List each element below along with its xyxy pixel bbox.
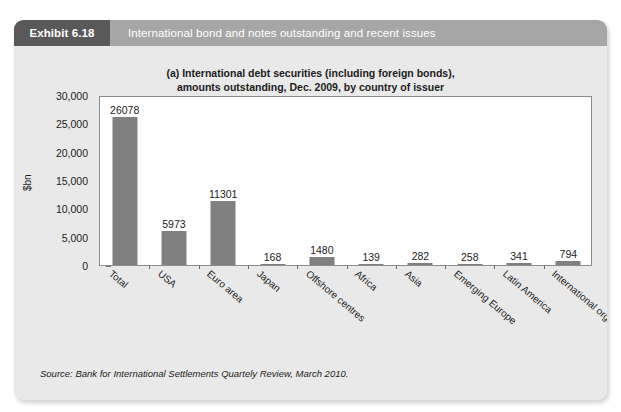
plot-area: 260785973113011681480139282258341794 bbox=[99, 96, 592, 266]
bar[interactable] bbox=[507, 263, 532, 265]
bar[interactable] bbox=[260, 264, 285, 266]
bar[interactable] bbox=[359, 264, 384, 266]
y-tick-label: 15,000 bbox=[56, 175, 88, 187]
bar-group: 139 bbox=[347, 97, 396, 265]
bar-value-label: 341 bbox=[510, 250, 528, 262]
bar[interactable] bbox=[112, 117, 137, 265]
chart-plot-region: $bn 05,00010,00015,00020,00025,00030,000… bbox=[14, 96, 607, 366]
bar-group: 26078 bbox=[100, 97, 149, 265]
bar[interactable] bbox=[457, 264, 482, 266]
bar-group: 258 bbox=[445, 97, 494, 265]
bar-value-label: 5973 bbox=[162, 218, 185, 230]
x-axis-tick-labels: TotalUSAEuro areaJapanOffshore centresAf… bbox=[99, 268, 592, 368]
y-tick-label: 10,000 bbox=[56, 203, 88, 215]
y-axis-tick-labels: 05,00010,00015,00020,00025,00030,000 bbox=[26, 96, 94, 266]
bar[interactable] bbox=[309, 257, 334, 265]
x-tick-label: Total bbox=[107, 268, 130, 290]
y-tick-label: 20,000 bbox=[56, 147, 88, 159]
bar-group: 5973 bbox=[149, 97, 198, 265]
x-tick-label: Asia bbox=[403, 268, 425, 289]
x-tick-label: Euro area bbox=[205, 268, 246, 305]
bar[interactable] bbox=[161, 231, 186, 265]
bar-value-label: 11301 bbox=[209, 188, 237, 200]
exhibit-number-tag: Exhibit 6.18 bbox=[14, 20, 110, 46]
bar[interactable] bbox=[211, 201, 236, 265]
bar[interactable] bbox=[408, 263, 433, 265]
y-tick-label: 25,000 bbox=[56, 118, 88, 130]
x-tick-label: Japan bbox=[255, 268, 283, 294]
x-tick-label: International organisations bbox=[550, 268, 607, 352]
bar-value-label: 1480 bbox=[310, 244, 333, 256]
bar-group: 11301 bbox=[199, 97, 248, 265]
chart-title-line-1: (a) International debt securities (inclu… bbox=[14, 66, 607, 80]
bar-value-label: 168 bbox=[264, 251, 282, 263]
bar-value-label: 139 bbox=[362, 251, 380, 263]
y-tick-mark bbox=[106, 266, 111, 267]
bar-value-label: 282 bbox=[412, 250, 430, 262]
bar[interactable] bbox=[556, 261, 581, 265]
chart-title-line-2: amounts outstanding, Dec. 2009, by count… bbox=[14, 80, 607, 94]
bar-group: 1480 bbox=[297, 97, 346, 265]
bar-value-label: 258 bbox=[461, 251, 479, 263]
bar-group: 282 bbox=[396, 97, 445, 265]
bars-container: 260785973113011681480139282258341794 bbox=[100, 97, 591, 265]
exhibit-header: Exhibit 6.18 International bond and note… bbox=[14, 20, 607, 46]
y-tick-label: 5,000 bbox=[62, 232, 88, 244]
bar-value-label: 794 bbox=[560, 248, 578, 260]
chart-title: (a) International debt securities (inclu… bbox=[14, 66, 607, 94]
bar-group: 168 bbox=[248, 97, 297, 265]
exhibit-card: Exhibit 6.18 International bond and note… bbox=[14, 20, 607, 400]
y-tick-label: 0 bbox=[82, 260, 88, 272]
y-tick-label: 30,000 bbox=[56, 90, 88, 102]
x-tick-label: Latin America bbox=[501, 268, 554, 315]
x-tick-label: Africa bbox=[353, 268, 380, 293]
bar-group: 341 bbox=[494, 97, 543, 265]
bar-value-label: 26078 bbox=[110, 104, 139, 116]
exhibit-header-title: International bond and notes outstanding… bbox=[110, 20, 607, 46]
source-note: Source: Bank for International Settlemen… bbox=[40, 368, 348, 379]
x-tick-label: USA bbox=[156, 268, 179, 290]
bar-group: 794 bbox=[544, 97, 593, 265]
